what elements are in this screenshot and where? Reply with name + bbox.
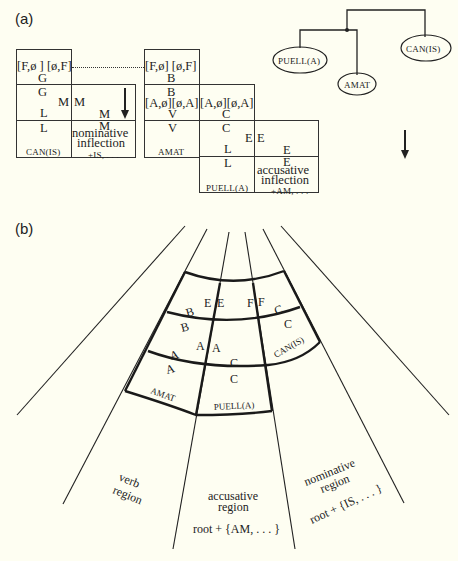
svg-text:A: A [168, 347, 180, 363]
svg-text:C: C [230, 372, 238, 386]
svg-text:region: region [218, 500, 249, 514]
svg-text:F: F [258, 295, 265, 309]
svg-text:B: B [179, 319, 190, 335]
svg-text:C: C [230, 356, 238, 370]
svg-text:region: region [111, 483, 145, 507]
svg-text:F: F [247, 296, 254, 310]
svg-text:PUELL(A): PUELL(A) [214, 400, 255, 412]
svg-text:A: A [196, 339, 205, 353]
svg-text:A: A [212, 341, 221, 355]
svg-text:C: C [284, 317, 292, 331]
svg-text:E: E [217, 296, 224, 310]
region-diagram: E E F F B B C C A A A A C C CAN(IS) AMAT… [0, 0, 458, 561]
svg-text:B: B [184, 304, 195, 320]
svg-text:A: A [164, 361, 176, 377]
svg-text:root + {AM, . . . }: root + {AM, . . . } [193, 522, 280, 536]
svg-text:E: E [204, 296, 211, 310]
